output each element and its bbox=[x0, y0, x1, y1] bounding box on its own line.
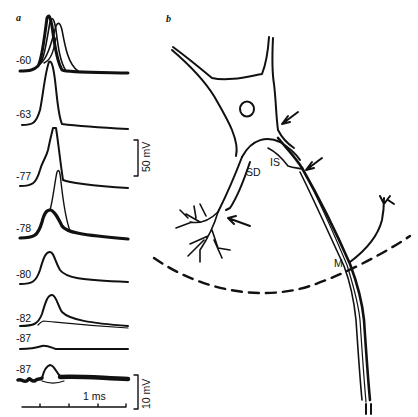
trace-label-minus-82: -82 bbox=[16, 312, 31, 324]
panel-b-label: b bbox=[166, 13, 171, 24]
trace-minus-77 bbox=[20, 128, 128, 188]
scale-label-10mv: 10 mV bbox=[140, 379, 152, 409]
trace-label-minus-60: -60 bbox=[16, 54, 31, 66]
trace-minus-87-a bbox=[20, 346, 128, 349]
scale-bar-10mv bbox=[134, 375, 138, 409]
trace-minus-87-b bbox=[18, 365, 128, 383]
label-m: M bbox=[334, 257, 343, 269]
trace-label-minus-78: -78 bbox=[16, 222, 31, 234]
label-is: IS bbox=[270, 156, 280, 168]
trace-label-minus-80: -80 bbox=[16, 268, 31, 280]
trace-label-minus-63: -63 bbox=[16, 108, 31, 120]
trace-label-minus-87-b: -87 bbox=[16, 363, 31, 375]
trace-label-minus-87-a: -87 bbox=[16, 332, 31, 344]
label-sd: SD bbox=[246, 166, 261, 178]
trace-label-minus-77: -77 bbox=[16, 170, 31, 182]
time-axis bbox=[22, 404, 126, 407]
time-scale-label: 1 ms bbox=[83, 390, 106, 402]
panel-a-label: a bbox=[16, 12, 21, 23]
figure-canvas: a -60 -63 50 mV -77 -78 -80 -82 -87 bbox=[0, 0, 418, 417]
scale-label-50mv: 50 mV bbox=[140, 142, 152, 172]
scale-bar-50mv bbox=[134, 140, 138, 176]
trace-minus-60 bbox=[20, 16, 128, 73]
trace-minus-82 bbox=[20, 295, 128, 328]
trace-minus-80 bbox=[20, 252, 128, 284]
neuron-drawing bbox=[154, 37, 410, 414]
nucleus bbox=[240, 102, 254, 117]
